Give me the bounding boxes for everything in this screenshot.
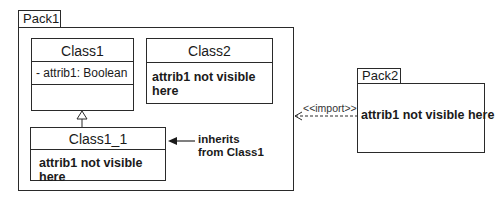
inherits-line2: from Class1: [198, 146, 264, 159]
connectors: [0, 0, 502, 199]
inherits-arrow: [168, 137, 195, 145]
inherits-line1: inherits: [198, 133, 264, 146]
import-label: <<import>>: [303, 102, 357, 114]
inherits-annotation: inherits from Class1: [198, 133, 264, 159]
generalization-arrow: [77, 111, 87, 127]
